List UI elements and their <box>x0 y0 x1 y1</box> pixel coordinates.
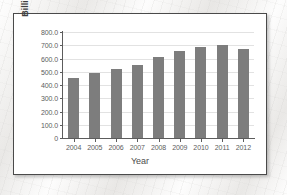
x-tick-mark <box>180 139 181 142</box>
y-tick-label: 600.0 <box>41 55 58 62</box>
x-tick-label-2010: 2010 <box>193 144 208 151</box>
bar-2008 <box>153 57 164 138</box>
y-tick-mark <box>60 32 63 33</box>
y-tick-label: 200.0 <box>41 108 58 115</box>
y-tick-mark <box>60 112 63 113</box>
y-tick-label: 400.0 <box>41 82 58 89</box>
page-background: Billions of dollars 0100.0200.0300.0400.… <box>0 0 287 195</box>
y-tick-label: 100.0 <box>41 121 58 128</box>
x-tick-label-2009: 2009 <box>172 144 187 151</box>
x-tick-mark <box>95 139 96 142</box>
y-tick-label: 500.0 <box>41 68 58 75</box>
gridline <box>63 32 254 33</box>
x-tick-label-2012: 2012 <box>236 144 251 151</box>
y-tick-mark <box>60 98 63 99</box>
bar-2005 <box>89 73 100 138</box>
y-tick-mark <box>60 72 63 73</box>
x-tick-label-2005: 2005 <box>87 144 102 151</box>
y-axis-tick-labels: 0100.0200.0300.0400.0500.0600.0700.0800.… <box>14 32 58 138</box>
bar-2004 <box>68 78 79 138</box>
bar-2012 <box>238 49 249 138</box>
plot-area <box>63 32 254 138</box>
x-tick-mark <box>137 139 138 142</box>
y-tick-mark <box>60 138 63 139</box>
x-tick-label-2008: 2008 <box>151 144 166 151</box>
y-tick-mark <box>60 85 63 86</box>
x-tick-label-2004: 2004 <box>66 144 81 151</box>
x-tick-label-2007: 2007 <box>130 144 145 151</box>
x-axis-title: Year <box>14 156 266 166</box>
x-tick-mark <box>116 139 117 142</box>
x-tick-label-2011: 2011 <box>215 144 230 151</box>
bar-2011 <box>217 45 228 138</box>
x-tick-mark <box>222 139 223 142</box>
x-tick-mark <box>201 139 202 142</box>
y-tick-label: 800.0 <box>41 29 58 36</box>
y-axis-title: Billions of dollars <box>20 0 32 34</box>
chart-card: Billions of dollars 0100.0200.0300.0400.… <box>13 13 267 175</box>
y-tick-label: 0 <box>54 135 58 142</box>
bar-2006 <box>111 69 122 138</box>
y-tick-mark <box>60 45 63 46</box>
x-tick-mark <box>74 139 75 142</box>
x-tick-mark <box>159 139 160 142</box>
y-tick-mark <box>60 125 63 126</box>
bar-2007 <box>132 65 143 138</box>
x-tick-mark <box>243 139 244 142</box>
bar-2009 <box>174 51 185 138</box>
x-tick-label-2006: 2006 <box>108 144 123 151</box>
y-tick-mark <box>60 59 63 60</box>
y-tick-label: 300.0 <box>41 95 58 102</box>
y-tick-label: 700.0 <box>41 42 58 49</box>
bar-2010 <box>195 47 206 138</box>
